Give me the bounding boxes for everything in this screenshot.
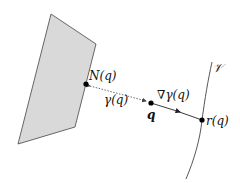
manifold-label: 𝒱 [213, 61, 227, 75]
reflected-point-label: r(q) [206, 114, 229, 128]
reflected-point-dot [199, 117, 204, 122]
distance-label: γ(q) [104, 93, 129, 107]
projection-point-label: N(q) [88, 69, 117, 83]
projection-point-dot [83, 81, 88, 86]
diagram-canvas: 𝒱 N(q) γ(q) q ∇γ(q) r(q) [0, 0, 240, 183]
planar-region-polygon [18, 14, 96, 144]
query-point-dot [148, 100, 153, 105]
gradient-line [178, 112, 202, 121]
gradient-label: ∇γ(q) [157, 88, 190, 102]
query-point-label: q [147, 108, 155, 122]
